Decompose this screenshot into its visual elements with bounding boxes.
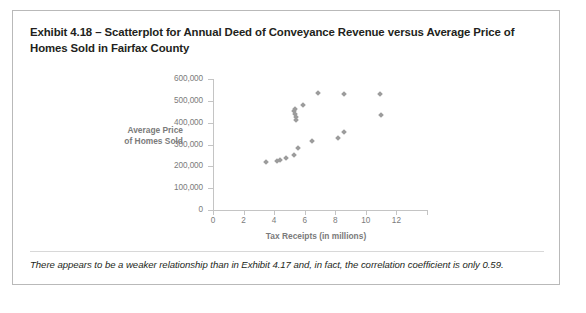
data-point [335,135,341,141]
x-tick-label: 10 [354,216,378,225]
x-axis-line [213,210,427,211]
y-tick [208,145,213,146]
y-tick-label: 600,000 [174,74,203,83]
plot-inner: 0100,000200,000300,000400,000500,000600,… [205,79,427,224]
y-tick [208,101,213,102]
y-tick-label: 200,000 [174,161,203,170]
data-point [263,159,269,165]
y-tick-label: 300,000 [174,140,203,149]
y-tick [208,188,213,189]
data-point [310,138,316,144]
x-tick-label: 4 [262,216,286,225]
x-tick [305,210,306,215]
y-axis-title: Average Price of Homes Sold [91,125,183,147]
data-point [342,91,348,97]
data-point [378,112,384,118]
data-point [341,129,347,135]
caption-divider [30,251,544,252]
y-tick-label: 0 [199,205,203,214]
data-point [291,152,297,158]
x-tick [427,210,428,215]
data-point [300,102,306,108]
x-tick-label: 6 [293,216,317,225]
x-tick-label: 2 [232,216,256,225]
exhibit-title: Exhibit 4.18 – Scatterplot for Annual De… [30,25,535,56]
data-point [283,155,289,161]
exhibit-panel: Exhibit 4.18 – Scatterplot for Annual De… [12,10,560,285]
data-point [315,90,321,96]
x-tick [274,210,275,215]
data-point [295,145,301,151]
y-tick-label: 500,000 [174,96,203,105]
x-tick [366,210,367,215]
exhibit-caption: There appears to be a weaker relationshi… [30,258,546,271]
y-tick [208,166,213,167]
scatterplot-chart: Average Price of Homes Sold 0100,000200,… [13,59,559,241]
y-axis-line [213,79,214,210]
y-tick [208,123,213,124]
data-point [293,117,299,123]
x-axis-title: Tax Receipts (in millions) [205,231,427,241]
y-tick-label: 100,000 [174,183,203,192]
y-axis-title-line-1: Average Price [91,125,183,136]
data-point [377,91,383,97]
x-tick [335,210,336,215]
y-tick-label: 400,000 [174,118,203,127]
x-tick [396,210,397,215]
x-tick-label: 0 [201,216,225,225]
x-tick [213,210,214,215]
plot-area: 0100,000200,000300,000400,000500,000600,… [205,79,427,224]
y-axis-title-line-2: of Homes Sold [91,136,183,147]
x-tick [244,210,245,215]
x-tick-label: 12 [384,216,408,225]
y-tick [208,79,213,80]
x-tick-label: 8 [323,216,347,225]
